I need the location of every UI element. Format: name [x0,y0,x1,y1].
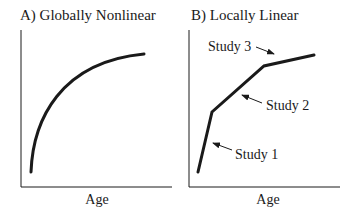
panel-b-title: B) Locally Linear [191,7,298,24]
panel-a-title: A) Globally Nonlinear [20,7,156,24]
panel-b: B) Locally Linear Study 3 Study 2 Study … [189,7,340,207]
study-2-label: Study 2 [266,98,309,113]
study-3-label: Study 3 [208,39,251,54]
panel-a-nonlinear-curve [31,54,144,172]
study-1-arrow-icon [213,143,232,150]
study-1-label: Study 1 [235,147,278,162]
study-3-arrow-icon [256,47,274,54]
panel-a-x-label: Age [85,192,108,207]
study-2-arrow-icon [242,95,262,103]
diagram-canvas: A) Globally Nonlinear Age B) Locally Lin… [0,0,355,214]
panel-a: A) Globally Nonlinear Age [20,7,172,207]
panel-b-x-label: Age [256,192,279,207]
